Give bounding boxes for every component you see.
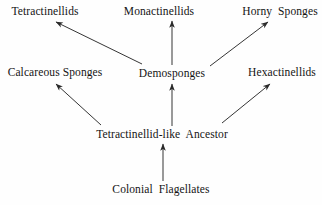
edges-group	[56, 21, 270, 181]
edge-ancestor-to-calcareous-sponges	[56, 84, 101, 125]
node-horny-sponges: Horny Sponges	[242, 5, 318, 17]
node-hexactinellids: Hexactinellids	[248, 66, 316, 78]
node-colonial-flagellates: Colonial Flagellates	[112, 183, 209, 195]
phylogenetic-diagram: Tetractinellids Monactinellids Horny Spo…	[0, 0, 322, 205]
node-tetractinellids: Tetractinellids	[11, 5, 78, 17]
arrow-layer	[0, 0, 322, 205]
node-calcareous-sponges: Calcareous Sponges	[8, 66, 103, 78]
node-monactinellids: Monactinellids	[124, 5, 194, 17]
edge-ancestor-to-hexactinellids	[222, 84, 270, 123]
node-tetractinellid-like-ancestor: Tetractinellid-like Ancestor	[96, 128, 228, 140]
node-demosponges: Demosponges	[139, 67, 205, 79]
edge-demosponges-to-horny-sponges	[210, 22, 268, 66]
edge-demosponges-to-tetractinellids	[56, 22, 142, 64]
